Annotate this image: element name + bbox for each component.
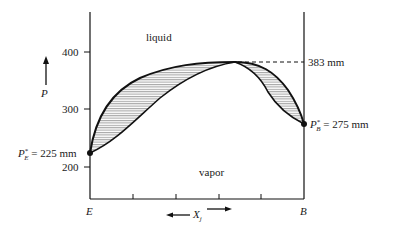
pe-subscript: E: [24, 154, 28, 162]
point-pb: [301, 121, 307, 127]
y-tick-label-200: 200: [62, 162, 79, 173]
azeotrope-label: 383 mm: [308, 57, 344, 68]
point-pe: [87, 150, 93, 156]
phase-diagram: 400 300 200 P liquid vapor 383 mm P*E = …: [0, 0, 393, 233]
x-axis-subscript: j: [200, 215, 202, 223]
y-tick-label-400: 400: [62, 47, 79, 58]
region-label-liquid: liquid: [146, 32, 172, 43]
diagram-canvas: [0, 0, 393, 233]
x-axis-right-end-label: B: [300, 206, 307, 217]
y-axis-label: P: [41, 88, 48, 99]
x-arrow-left-head-icon: [166, 213, 173, 218]
x-axis-left-end-label: E: [86, 206, 93, 217]
pe-label: P*E = 225 mm: [18, 148, 77, 162]
y-tick-label-300: 300: [62, 104, 79, 115]
pb-label: P*B = 275 mm: [310, 119, 369, 133]
region-label-vapor: vapor: [199, 167, 224, 178]
p-arrow-head-icon: [43, 56, 49, 64]
pe-value: = 225 mm: [31, 147, 76, 159]
x-arrow-right-head-icon: [225, 207, 232, 212]
x-axis-label: Xj: [193, 209, 202, 223]
pb-value: = 275 mm: [323, 118, 368, 130]
pb-subscript: B: [316, 125, 320, 133]
x-axis-symbol: X: [193, 208, 200, 220]
